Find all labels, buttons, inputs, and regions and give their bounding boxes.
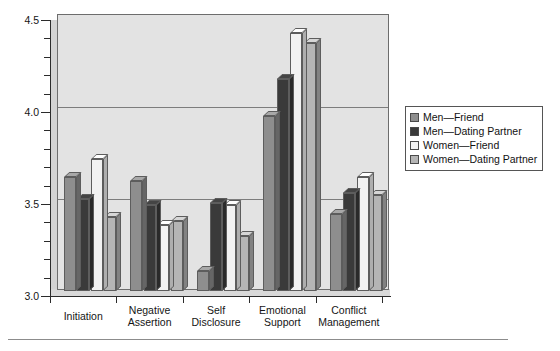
bar-side xyxy=(249,231,254,291)
bar-side xyxy=(156,200,161,291)
bar-side xyxy=(222,198,227,291)
legend-label: Men—Friend xyxy=(423,112,484,123)
bar xyxy=(330,214,342,291)
x-axis xyxy=(50,296,391,297)
y-tick-minor xyxy=(44,167,50,168)
y-tick-minor xyxy=(44,149,50,150)
y-tick-minor xyxy=(44,278,50,279)
legend-swatch-icon xyxy=(410,127,419,136)
y-tick-minor xyxy=(44,186,50,187)
y-tick-minor xyxy=(44,57,50,58)
legend-label: Men—Dating Partner xyxy=(423,126,522,137)
bar-face xyxy=(330,214,342,291)
y-tick-major xyxy=(41,204,50,205)
bar-side xyxy=(142,176,147,291)
y-axis xyxy=(50,20,51,297)
y-tick-minor xyxy=(44,38,50,39)
legend-swatch-icon xyxy=(410,113,419,122)
bar-side xyxy=(183,216,188,291)
y-tick-minor xyxy=(44,130,50,131)
x-tick xyxy=(382,296,383,303)
legend-item[interactable]: Men—Dating Partner xyxy=(410,124,537,138)
legend: Men—FriendMen—Dating PartnerWomen—Friend… xyxy=(405,106,543,171)
bar xyxy=(197,271,209,291)
legend-label: Women—Dating Partner xyxy=(423,154,537,165)
bar-side xyxy=(103,154,108,291)
bar xyxy=(263,116,275,291)
y-tick-major xyxy=(41,296,50,297)
x-tick xyxy=(249,296,250,303)
bar xyxy=(64,177,76,291)
bar-side xyxy=(355,189,360,291)
y-tick-label: 3.5 xyxy=(5,199,39,209)
x-tick xyxy=(116,296,117,303)
y-tick-major xyxy=(41,20,50,21)
y-axis-labels: 3.03.54.04.5 xyxy=(0,0,39,351)
bar-side xyxy=(369,172,374,291)
bar-face xyxy=(197,271,209,291)
legend-item[interactable]: Men—Friend xyxy=(410,110,537,124)
gridline xyxy=(58,107,388,108)
bar-side xyxy=(169,220,174,291)
figure: 3.03.54.04.5 InitiationNegativeAssertion… xyxy=(0,0,560,351)
legend-swatch-icon xyxy=(410,155,419,164)
y-tick-major xyxy=(41,112,50,113)
bar-side xyxy=(89,194,94,291)
y-tick-minor xyxy=(44,75,50,76)
y-tick-minor xyxy=(44,94,50,95)
bar-side xyxy=(275,111,280,291)
legend-item[interactable]: Women—Dating Partner xyxy=(410,152,537,166)
y-tick-minor xyxy=(44,222,50,223)
plot-area xyxy=(57,14,389,290)
bar-side xyxy=(342,209,347,291)
bar xyxy=(130,181,142,291)
bar-side xyxy=(382,190,387,291)
bar-side xyxy=(302,29,307,291)
y-tick-minor xyxy=(44,241,50,242)
y-tick-label: 3.0 xyxy=(5,291,39,301)
x-tick xyxy=(183,296,184,303)
bar-side xyxy=(236,200,241,291)
bottom-divider xyxy=(8,339,508,340)
legend-swatch-icon xyxy=(410,141,419,150)
bar-side xyxy=(76,172,81,291)
y-tick-minor xyxy=(44,259,50,260)
x-tick-label: ConflictManagement xyxy=(294,305,404,328)
legend-label: Women—Friend xyxy=(423,140,499,151)
y-tick-label: 4.5 xyxy=(5,15,39,25)
x-tick xyxy=(316,296,317,303)
x-tick-label-line: Conflict xyxy=(294,305,404,317)
bar-face xyxy=(263,116,275,291)
bar-side xyxy=(289,75,294,291)
y-tick-label: 4.0 xyxy=(5,107,39,117)
x-tick-label-line: Management xyxy=(294,317,404,329)
bar-side xyxy=(116,213,121,291)
x-tick xyxy=(50,296,51,303)
legend-item[interactable]: Women—Friend xyxy=(410,138,537,152)
bar-side xyxy=(316,38,321,291)
bar-face xyxy=(130,181,142,291)
bar-face xyxy=(64,177,76,291)
